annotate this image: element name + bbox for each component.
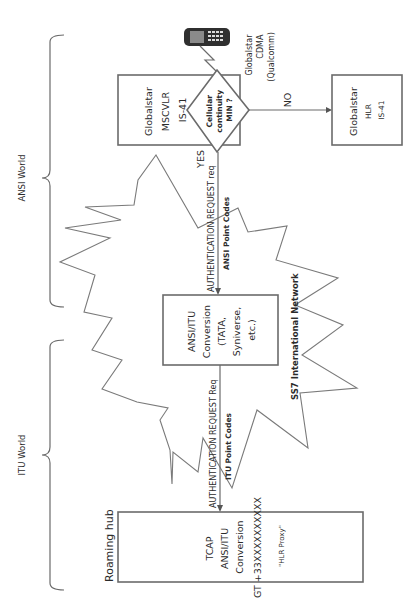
roaming-hub-line-1: TCAP (204, 536, 215, 561)
ss7-network-label: SS7 International Network (290, 273, 300, 400)
itu-point-codes: ITU Point Codes (224, 413, 233, 480)
no-label: NO (282, 93, 293, 108)
roaming-hub-line-3: Conversion (234, 520, 245, 573)
roaming-hub-gt: GT +33XXXXXXXXXX (252, 497, 263, 598)
conversion-line-5: etc.) (246, 319, 257, 341)
decision-line-1: Cellular (205, 95, 214, 128)
no-branch-arrowhead (326, 107, 332, 113)
roaming-hub-title: Roaming hub (103, 509, 116, 582)
conversion-line-1: ANSI/ITU (186, 311, 197, 352)
itu-world-brace (42, 340, 64, 590)
phone-label-line-1: Globalstar (245, 34, 254, 76)
ansi-world-brace (42, 35, 64, 307)
mobile-phone-icon (184, 28, 230, 46)
conversion-line-4: Syniverse, (231, 307, 242, 357)
ansi-auth-message: AUTHENTICATION REQUEST req (207, 166, 216, 292)
phone-label-line-3: (Qualcomm) (267, 32, 276, 82)
phone-label-line-2: CDMA (256, 34, 265, 59)
hlr-line-1: Globalstar (348, 87, 359, 136)
hlr-line-2: HLR (364, 104, 373, 119)
conversion-line-2: Conversion (201, 305, 212, 358)
msc-vlr-line-1: Globalstar (143, 87, 154, 136)
roaming-hub-line-2: ANSI/ITU (219, 528, 230, 569)
ansi-world-label: ANSI World (17, 154, 27, 201)
hlr-line-3: IS-41 (377, 100, 386, 119)
phone-label: Globalstar CDMA (Qualcomm) (245, 32, 276, 82)
msc-vlr-line-2: MSCVLR (160, 91, 171, 131)
yes-label: YES (195, 150, 206, 169)
ansi-point-codes: ANSI Point Codes (222, 196, 231, 270)
decision-line-2: continuity (215, 90, 224, 133)
hlr-proxy-label: "HLR Proxy" (278, 525, 286, 567)
diagram-canvas: ANSI World ITU World SS7 International N… (0, 0, 408, 602)
itu-world-label: ITU World (17, 435, 27, 476)
decision-line-3: MIN ? (225, 98, 234, 122)
itu-auth-message: AUTHENTICATION REQUEST Req (209, 379, 218, 508)
conversion-line-3: (TATA, (216, 317, 227, 346)
